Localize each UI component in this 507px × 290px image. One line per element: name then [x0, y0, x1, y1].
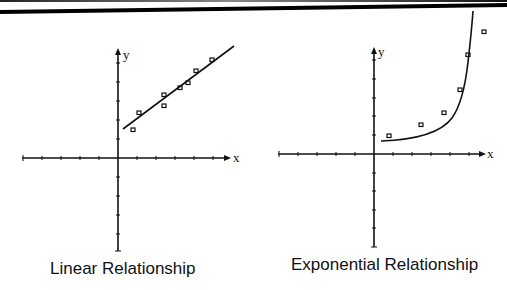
- x-axis-arrow-icon: [479, 151, 486, 157]
- linear-data-points: [131, 58, 214, 132]
- data-point: [162, 104, 166, 108]
- data-point: [387, 134, 391, 138]
- x-axis-arrow-icon: [224, 155, 231, 161]
- top-thin-rule: [0, 0, 507, 2]
- data-point: [482, 30, 486, 34]
- exponential-chart: x y: [278, 11, 494, 247]
- x-axis-label: x: [487, 146, 494, 161]
- linear-chart: x y: [22, 46, 240, 251]
- y-axis-arrow-icon: [371, 47, 377, 54]
- data-point: [442, 111, 446, 115]
- y-axis-arrow-icon: [115, 48, 121, 55]
- data-point: [186, 81, 190, 85]
- x-axis-label: x: [233, 150, 240, 165]
- figure: x y: [0, 0, 507, 290]
- data-point: [162, 93, 166, 97]
- linear-chart-caption: Linear Relationship: [50, 259, 196, 279]
- data-point: [458, 88, 462, 92]
- y-axis-label: y: [378, 44, 385, 59]
- data-point: [419, 123, 423, 127]
- top-thick-rule: [0, 3, 507, 14]
- exponential-data-points: [387, 30, 486, 138]
- data-point: [137, 111, 141, 115]
- exponential-chart-caption: Exponential Relationship: [291, 255, 478, 275]
- y-axis-label: y: [123, 47, 130, 62]
- data-point: [210, 58, 214, 62]
- data-point: [131, 128, 135, 132]
- data-point: [194, 69, 198, 73]
- exponential-fit-curve: [381, 11, 473, 141]
